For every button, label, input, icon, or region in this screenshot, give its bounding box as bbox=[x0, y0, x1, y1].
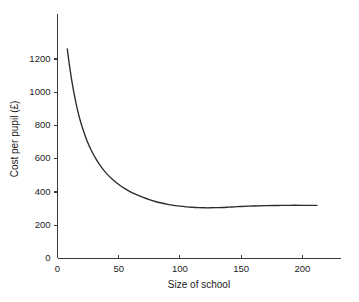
x-tick-label: 150 bbox=[233, 263, 249, 274]
x-tick-label: 50 bbox=[113, 263, 124, 274]
y-axis-title: Cost per pupil (£) bbox=[9, 101, 20, 178]
y-tick-label: 1200 bbox=[29, 53, 50, 64]
x-tick-label: 100 bbox=[172, 263, 188, 274]
y-tick-label: 600 bbox=[35, 152, 51, 163]
y-tick-label: 400 bbox=[35, 186, 51, 197]
x-tick-label: 200 bbox=[294, 263, 310, 274]
y-tick-label: 800 bbox=[35, 119, 51, 130]
cost-per-pupil-line-chart: 020040060080010001200 050100150200 Size … bbox=[0, 0, 359, 302]
y-tick-label: 1000 bbox=[29, 86, 50, 97]
x-tick-label: 0 bbox=[55, 263, 60, 274]
y-tick-label: 0 bbox=[45, 252, 50, 263]
y-tick-label: 200 bbox=[35, 219, 51, 230]
x-axis-title: Size of school bbox=[168, 279, 230, 290]
chart-container: 020040060080010001200 050100150200 Size … bbox=[0, 0, 359, 302]
